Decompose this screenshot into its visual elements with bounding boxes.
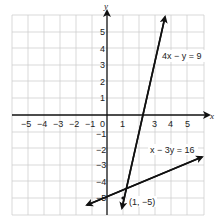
- svg-text:−3: −3: [53, 119, 63, 129]
- line2-label: x − 3y = 16: [150, 145, 195, 155]
- intersection-point: [121, 196, 124, 199]
- svg-text:−4: −4: [37, 119, 47, 129]
- line-4x-minus-y-eq-9: [122, 17, 165, 208]
- svg-text:3: 3: [152, 119, 157, 129]
- svg-text:4: 4: [100, 44, 105, 54]
- svg-text:4: 4: [168, 119, 173, 129]
- svg-text:2: 2: [100, 77, 105, 87]
- svg-text:−4: −4: [96, 177, 106, 187]
- line1-label: 4x − y = 9: [162, 51, 202, 61]
- svg-text:1: 1: [100, 93, 105, 103]
- x-axis-label: x: [209, 111, 214, 121]
- svg-text:−1: −1: [85, 119, 95, 129]
- svg-text:0: 0: [100, 119, 105, 129]
- svg-text:3: 3: [100, 60, 105, 70]
- svg-text:5: 5: [185, 119, 190, 129]
- svg-text:1: 1: [120, 119, 125, 129]
- svg-text:−3: −3: [96, 160, 106, 170]
- svg-text:−1: −1: [96, 129, 106, 139]
- svg-text:−2: −2: [96, 145, 106, 155]
- coordinate-plane: x y −5 −4 −3 −2 −1 0 1 3 4 5 5 4 3 2 1 −…: [0, 0, 216, 222]
- y-axis-label: y: [103, 1, 108, 11]
- x-tick-labels: −5 −4 −3 −2 −1 0 1 3 4 5: [21, 119, 190, 129]
- svg-text:−2: −2: [69, 119, 79, 129]
- intersection-label: (1, −5): [129, 197, 155, 207]
- svg-text:5: 5: [100, 27, 105, 37]
- svg-text:−5: −5: [21, 119, 31, 129]
